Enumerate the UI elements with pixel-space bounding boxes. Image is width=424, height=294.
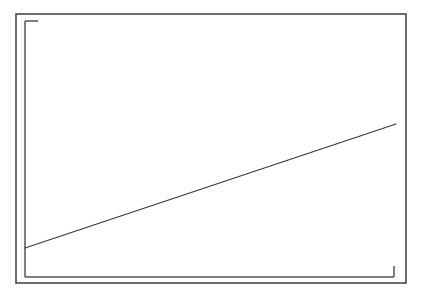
- chart-canvas: [0, 0, 424, 294]
- chart-background: [0, 0, 424, 294]
- chart-figure: [0, 0, 424, 294]
